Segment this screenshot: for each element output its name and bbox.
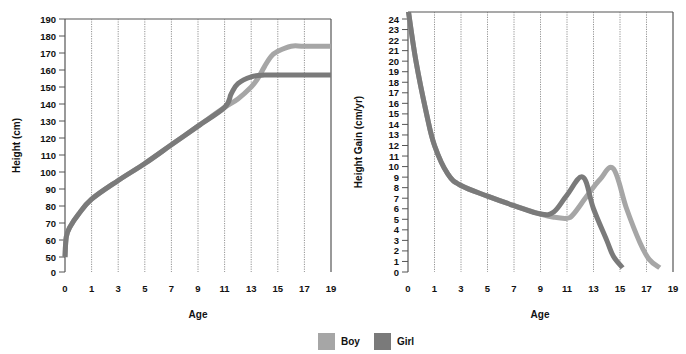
y-tick-label: 50 (45, 252, 56, 263)
y-axis-title: Height (cm) (11, 118, 22, 173)
legend-label-girl: Girl (397, 336, 414, 347)
y-tick-label: 150 (40, 82, 56, 93)
y-tick-label: 11 (389, 151, 400, 162)
y-tick-label: 9 (394, 172, 399, 183)
series-line-boy (408, 8, 660, 267)
y-tick-label: 2 (394, 245, 399, 256)
chart-legend: Boy Girl (318, 333, 422, 350)
y-tick-label: 60 (45, 235, 56, 246)
x-tick-label: 0 (405, 283, 410, 294)
y-tick-label: 180 (40, 31, 56, 42)
x-tick-label: 17 (299, 283, 310, 294)
growth-charts: 0135791113151719050607080901001101201301… (0, 0, 686, 354)
x-tick-label: 11 (562, 283, 573, 294)
y-tick-label: 18 (388, 77, 399, 88)
y-tick-label: 22 (388, 35, 399, 46)
height-chart: 0135791113151719050607080901001101201301… (11, 14, 336, 321)
y-tick-label: 140 (40, 99, 56, 110)
y-tick-label: 17 (388, 87, 399, 98)
y-tick-label: 120 (40, 133, 56, 144)
y-tick-label: 190 (40, 14, 56, 25)
x-tick-label: 5 (485, 283, 491, 294)
y-tick-label: 12 (388, 140, 399, 151)
y-tick-label: 7 (394, 193, 399, 204)
x-tick-label: 7 (169, 283, 174, 294)
x-tick-label: 15 (615, 283, 626, 294)
x-tick-label: 9 (195, 283, 200, 294)
y-tick-label: 21 (388, 45, 399, 56)
y-tick-label: 23 (388, 24, 399, 35)
x-tick-label: 5 (142, 283, 148, 294)
legend-label-boy: Boy (341, 336, 360, 347)
y-tick-label: 5 (394, 214, 400, 225)
y-tick-label: 80 (45, 201, 56, 212)
x-tick-label: 3 (116, 283, 121, 294)
y-tick-label: 24 (388, 14, 399, 25)
y-tick-label: 14 (388, 119, 399, 130)
y-tick-label: 16 (388, 98, 399, 109)
y-tick-label: 6 (394, 203, 399, 214)
girl-swatch-icon (374, 333, 391, 350)
y-axis-title: Height Gain (cm/yr) (353, 96, 364, 188)
x-tick-label: 1 (432, 283, 438, 294)
x-tick-label: 19 (668, 283, 679, 294)
y-tick-label: 170 (40, 48, 56, 59)
y-tick-label: 1 (394, 256, 400, 267)
x-tick-label: 3 (458, 283, 463, 294)
y-tick-label: 0 (394, 267, 399, 278)
y-tick-label: 19 (388, 66, 399, 77)
x-tick-label: 19 (326, 283, 337, 294)
x-axis-title: Age (189, 309, 208, 320)
x-tick-label: 1 (89, 283, 95, 294)
y-tick-label: 160 (40, 65, 56, 76)
height-gain-chart: 0135791113151719012345678910111213141516… (353, 8, 678, 320)
y-tick-label: 100 (40, 167, 56, 178)
x-tick-label: 17 (641, 283, 652, 294)
x-tick-label: 0 (62, 283, 67, 294)
boy-swatch-icon (318, 333, 335, 350)
y-tick-label: 130 (40, 116, 56, 127)
y-tick-label: 4 (394, 224, 400, 235)
series-line-girl (408, 8, 623, 267)
y-tick-label: 0 (51, 267, 56, 278)
y-tick-label: 10 (388, 161, 399, 172)
y-tick-label: 13 (388, 129, 399, 140)
y-tick-label: 20 (388, 56, 399, 67)
legend-item-boy: Boy (318, 333, 360, 350)
x-tick-label: 13 (246, 283, 257, 294)
legend-item-girl: Girl (374, 333, 414, 350)
x-tick-label: 13 (588, 283, 599, 294)
y-tick-label: 90 (45, 184, 56, 195)
y-tick-label: 15 (388, 108, 399, 119)
x-tick-label: 9 (538, 283, 543, 294)
y-tick-label: 8 (394, 182, 399, 193)
x-tick-label: 11 (220, 283, 231, 294)
y-tick-label: 70 (45, 218, 56, 229)
y-tick-label: 110 (41, 150, 56, 161)
x-tick-label: 7 (511, 283, 516, 294)
x-tick-label: 15 (273, 283, 284, 294)
y-tick-label: 3 (394, 235, 399, 246)
x-axis-title: Age (531, 309, 550, 320)
